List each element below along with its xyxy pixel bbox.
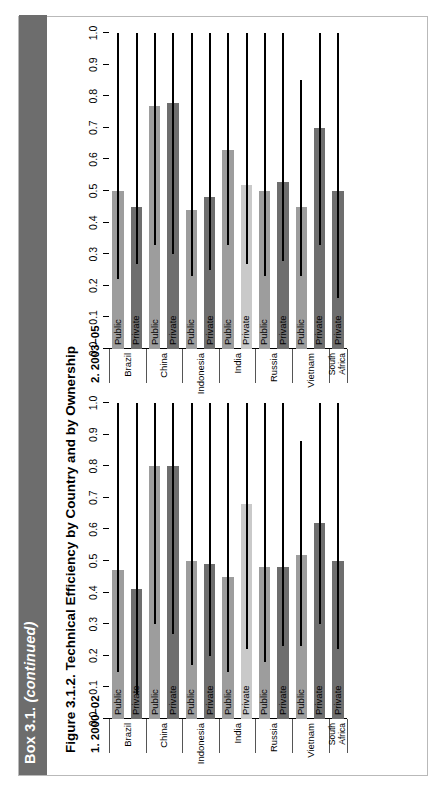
bar-row: Private <box>274 403 292 719</box>
ownership-label: Public <box>182 689 200 715</box>
bar-row: Private <box>329 403 347 719</box>
ownership-label: Public <box>255 689 273 715</box>
axis-tick-label: 1.0 <box>87 396 99 411</box>
ownership-label: Public <box>219 689 237 715</box>
axis-tick-label: 0.0 <box>87 342 99 357</box>
country-label-russia: Russia <box>255 721 292 753</box>
page-root: Box 3.1. (continued) Figure 3.1.2. Techn… <box>0 0 446 792</box>
axis-tick-label: 0.2 <box>87 279 99 294</box>
country-label-china: China <box>146 721 183 753</box>
axis-tick-label: 0.8 <box>87 89 99 104</box>
ownership-label: Public <box>292 319 310 345</box>
bar-row: Public <box>109 403 127 719</box>
axis-tick-label: 0.5 <box>87 554 99 569</box>
range-line <box>117 403 119 672</box>
axis-tick-label: 1.0 <box>87 26 99 41</box>
range-line <box>282 33 284 261</box>
ownership-label: Public <box>146 689 164 715</box>
ownership-label: Public <box>109 689 127 715</box>
ownership-label: Private <box>274 685 292 715</box>
ownership-label: Private <box>310 685 328 715</box>
bar-row: Public <box>255 403 273 719</box>
range-line <box>172 403 174 634</box>
ownership-label: Public <box>219 319 237 345</box>
rotated-page-content: Box 3.1. (continued) Figure 3.1.2. Techn… <box>18 16 428 776</box>
bar-row: Private <box>237 33 255 349</box>
ownership-label: Private <box>329 685 347 715</box>
axis-tick-label: 0.4 <box>87 215 99 230</box>
axis-tick-label: 0.3 <box>87 247 99 262</box>
ownership-label: Public <box>292 689 310 715</box>
ownership-label: Private <box>201 315 219 345</box>
country-label-vietnam: Vietnam <box>292 351 329 383</box>
bar-row: Private <box>201 33 219 349</box>
range-line <box>282 403 284 646</box>
range-line <box>154 403 156 624</box>
bar-row: Private <box>201 403 219 719</box>
axis-tick-label: 0.1 <box>87 310 99 325</box>
axis-tick-label: 0.1 <box>87 680 99 695</box>
chart-panel-2: 2. 2003–05 0.00.10.20.30.40.50.60.70.80.… <box>89 33 409 383</box>
country-separator <box>109 719 110 753</box>
bar-row: Private <box>310 33 328 349</box>
range-line <box>246 403 248 649</box>
country-separator <box>109 349 110 383</box>
range-line <box>191 403 193 665</box>
ownership-label: Private <box>237 315 255 345</box>
range-line <box>300 441 302 646</box>
ownership-label: Private <box>201 685 219 715</box>
ownership-label: Private <box>164 685 182 715</box>
range-line <box>319 33 321 245</box>
ownership-label: Public <box>109 319 127 345</box>
country-label-india: India <box>219 721 256 753</box>
range-line <box>117 33 119 279</box>
range-line <box>264 403 266 662</box>
range-line <box>154 33 156 245</box>
figure-title: Figure 3.1.2. Technical Efficiency by Co… <box>63 346 78 753</box>
bar-row: Private <box>274 33 292 349</box>
range-line <box>209 403 211 656</box>
country-label-south-africa: South Africa <box>329 351 347 383</box>
bar-row: Private <box>164 403 182 719</box>
range-line <box>337 33 339 298</box>
ownership-label: Private <box>274 315 292 345</box>
bar-row: Public <box>255 33 273 349</box>
bar-row: Public <box>146 403 164 719</box>
axis-tick-label: 0.5 <box>87 184 99 199</box>
bar-row: Public <box>292 403 310 719</box>
range-line <box>136 33 138 264</box>
bar-row: Private <box>164 33 182 349</box>
range-line <box>136 403 138 694</box>
country-label-indonesia: Indonesia <box>182 351 219 383</box>
range-line <box>172 33 174 254</box>
range-line <box>337 403 339 649</box>
bar-row: Private <box>310 403 328 719</box>
ownership-label: Public <box>182 319 200 345</box>
axis-tick-label: 0.7 <box>87 491 99 506</box>
bar-row: Private <box>237 403 255 719</box>
bar-row: Public <box>146 33 164 349</box>
bar-row: Private <box>127 403 145 719</box>
bar-row: Public <box>182 33 200 349</box>
ownership-label: Private <box>329 315 347 345</box>
country-separator <box>347 349 348 383</box>
axis-tick-label: 0.8 <box>87 459 99 474</box>
box-container: Box 3.1. (continued) Figure 3.1.2. Techn… <box>18 16 428 776</box>
country-label-russia: Russia <box>255 351 292 383</box>
ownership-label: Private <box>164 315 182 345</box>
country-label-brazil: Brazil <box>109 721 146 753</box>
country-label-brazil: Brazil <box>109 351 146 383</box>
axis-tick-label: 0.9 <box>87 427 99 442</box>
axis-tick-label: 0.9 <box>87 57 99 72</box>
box-header-bar: Box 3.1. (continued) <box>19 15 47 775</box>
chart-panel-1: 1. 2000–02 0.00.10.20.30.40.50.60.70.80.… <box>89 403 409 753</box>
plot-area-2: 0.00.10.20.30.40.50.60.70.80.91.0PublicP… <box>109 33 347 349</box>
plot-area-1: 0.00.10.20.30.40.50.60.70.80.91.0PublicP… <box>109 403 347 719</box>
range-line <box>209 33 211 270</box>
box-title: Box 3.1. (continued) <box>22 621 38 764</box>
axis-tick-label: 0.2 <box>87 649 99 664</box>
bar-row: Public <box>109 33 127 349</box>
country-label-china: China <box>146 351 183 383</box>
box-label: Box 3.1. <box>22 707 38 764</box>
bar-row: Public <box>219 33 237 349</box>
